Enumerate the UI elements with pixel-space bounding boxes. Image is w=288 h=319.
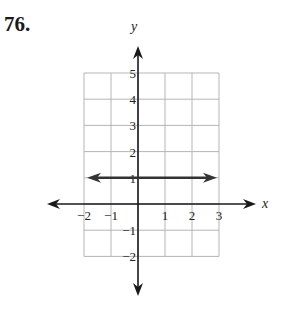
x-tick-label: −2	[77, 208, 91, 223]
coordinate-plane: −2−112354321−1−2 x y	[0, 0, 288, 319]
tick-labels: −2−112354321−1−2	[77, 66, 222, 264]
y-tick-label: 4	[130, 92, 137, 107]
y-tick-label: 5	[130, 66, 137, 81]
y-tick-label: 2	[130, 145, 137, 160]
x-tick-label: 1	[162, 208, 169, 223]
plotted-line	[87, 173, 217, 183]
grid	[84, 73, 219, 256]
x-tick-label: 3	[216, 208, 223, 223]
y-tick-label: 3	[130, 118, 137, 133]
axes	[47, 46, 256, 296]
y-tick-label: −1	[122, 223, 136, 238]
y-axis-label: y	[129, 19, 138, 34]
y-tick-label: −2	[122, 249, 136, 264]
x-axis-label: x	[261, 196, 269, 211]
x-tick-label: 2	[189, 208, 196, 223]
x-tick-label: −1	[104, 208, 118, 223]
